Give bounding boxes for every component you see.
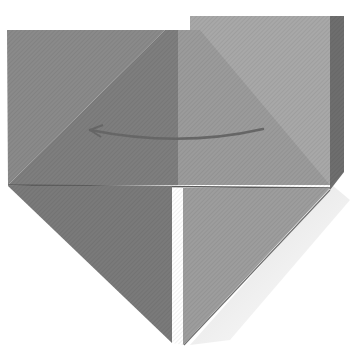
paper-texture — [7, 16, 344, 345]
origami-diagram: Origami folding step: fold right flap ov… — [0, 0, 356, 350]
